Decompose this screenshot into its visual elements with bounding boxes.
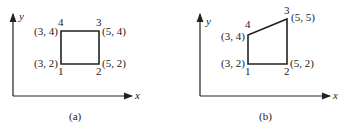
vertex-4-coord: (3, 4): [221, 30, 245, 43]
vertex-1-coord: (3, 2): [34, 57, 58, 70]
vertex-3-num: 3: [284, 4, 290, 16]
vertex-1-num: 1: [58, 65, 64, 77]
caption-a: (a): [69, 110, 82, 123]
caption-b: (b): [259, 110, 272, 123]
vertex-2-num: 2: [284, 65, 290, 77]
diagram-canvas: y x 1 (3, 2) 2 (5, 2) 3 (5, 4) 4 (3, 4) …: [0, 0, 347, 131]
quadrilateral-shape: [248, 19, 287, 64]
x-axis-label: x: [332, 89, 338, 101]
vertex-2-coord: (5, 2): [102, 57, 126, 70]
figure-b: y x 1 (3, 2) 2 (5, 2) 3 (5, 5) 4 (3, 4) …: [200, 4, 338, 123]
y-axis-label: y: [205, 15, 211, 27]
figure-a: y x 1 (3, 2) 2 (5, 2) 3 (5, 4) 4 (3, 4) …: [13, 10, 140, 123]
vertex-2-num: 2: [96, 65, 102, 77]
square-shape: [61, 31, 99, 64]
y-axis-label: y: [18, 10, 24, 22]
vertex-1-coord: (3, 2): [221, 57, 245, 70]
vertex-4-coord: (3, 4): [34, 25, 58, 38]
vertex-1-num: 1: [245, 65, 251, 77]
vertex-4-num: 4: [245, 18, 251, 30]
vertex-3-coord: (5, 5): [291, 11, 315, 24]
vertex-4-num: 4: [58, 16, 64, 28]
vertex-3-coord: (5, 4): [102, 25, 126, 38]
vertex-2-coord: (5, 2): [290, 57, 314, 70]
x-axis-label: x: [134, 89, 140, 101]
